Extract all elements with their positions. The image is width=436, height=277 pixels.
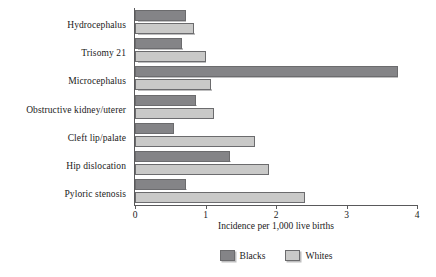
x-axis-tick	[276, 205, 277, 209]
chart-legend: Blacks Whites	[135, 250, 417, 261]
category-label-3: Obstructive kidney/uterer	[0, 105, 126, 115]
bar-blacks-2	[135, 66, 398, 77]
x-axis-tick	[135, 205, 136, 209]
category-axis-labels: HydrocephalusTrisomy 21MicrocephalusObst…	[0, 8, 130, 205]
plot-area: 01234	[135, 8, 417, 205]
whites-swatch-icon	[285, 250, 300, 261]
category-label-6: Pyloric stenosis	[0, 189, 126, 199]
bar-whites-3	[135, 108, 214, 119]
category-label-1: Trisomy 21	[0, 48, 126, 58]
bar-whites-2	[135, 79, 211, 90]
category-label-4: Cleft lip/palate	[0, 133, 126, 143]
x-axis-tick-label: 0	[120, 210, 150, 220]
category-label-0: Hydrocephalus	[0, 20, 126, 30]
bar-blacks-3	[135, 95, 196, 106]
bar-blacks-1	[135, 38, 182, 49]
x-axis-tick	[347, 205, 348, 209]
legend-label-blacks: Blacks	[240, 251, 266, 261]
x-axis-tick-label: 1	[191, 210, 221, 220]
bar-whites-4	[135, 136, 255, 147]
bar-blacks-4	[135, 123, 174, 134]
bar-whites-5	[135, 164, 269, 175]
bar-whites-6	[135, 192, 305, 203]
category-label-5: Hip dislocation	[0, 161, 126, 171]
x-axis-title: Incidence per 1,000 live births	[135, 221, 417, 231]
legend-label-whites: Whites	[305, 251, 332, 261]
bar-blacks-0	[135, 10, 186, 21]
bar-blacks-6	[135, 179, 186, 190]
x-axis-tick	[206, 205, 207, 209]
x-axis-tick-label: 3	[332, 210, 362, 220]
bar-chart: HydrocephalusTrisomy 21MicrocephalusObst…	[0, 0, 436, 277]
category-label-2: Microcephalus	[0, 76, 126, 86]
bar-whites-0	[135, 23, 194, 34]
legend-item-whites: Whites	[285, 250, 332, 261]
x-axis-tick-label: 4	[402, 210, 432, 220]
legend-item-blacks: Blacks	[220, 250, 266, 261]
bar-blacks-5	[135, 151, 230, 162]
blacks-swatch-icon	[220, 250, 235, 261]
x-axis-tick-label: 2	[261, 210, 291, 220]
x-axis-tick	[417, 205, 418, 209]
bar-whites-1	[135, 51, 206, 62]
